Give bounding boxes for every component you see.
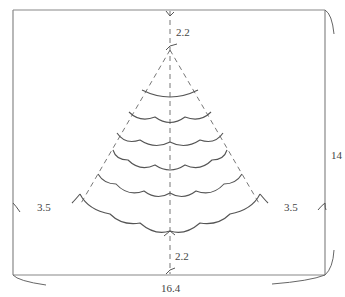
dim-right-offset: 3.5 <box>284 202 298 213</box>
dim-left-offset: 3.5 <box>37 202 51 213</box>
dim-height: 14 <box>331 150 342 161</box>
diagram-canvas: 2.2 2.2 3.5 3.5 14 16.4 <box>0 0 345 297</box>
dim-bottom-gap: 2.2 <box>175 251 189 262</box>
dim-top-gap: 2.2 <box>176 27 190 38</box>
dim-width: 16.4 <box>161 283 180 294</box>
corner-curls <box>13 10 334 285</box>
